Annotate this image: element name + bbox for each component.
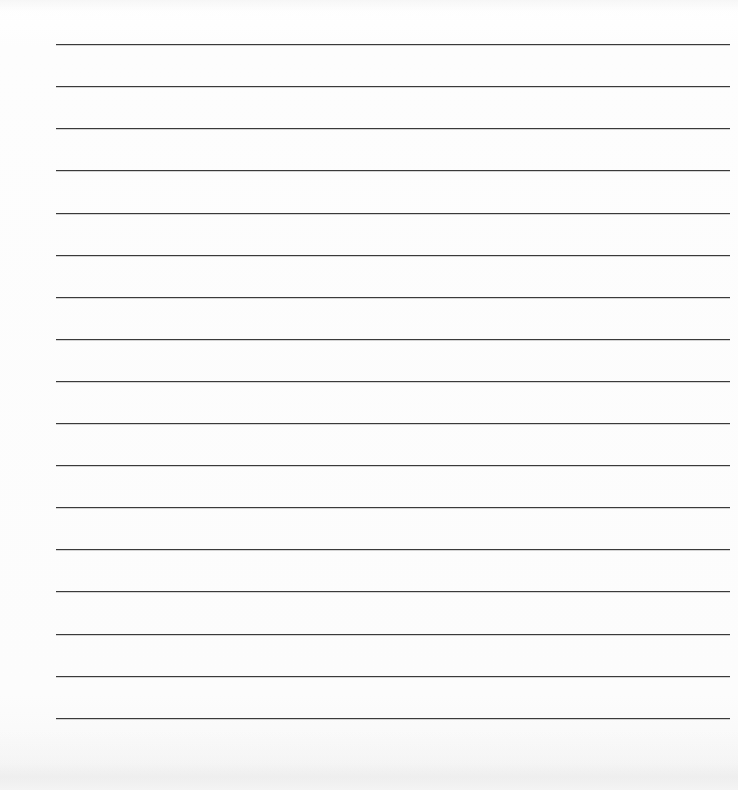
ruled-line — [56, 381, 730, 382]
ruled-line — [56, 634, 730, 635]
ruled-line — [56, 44, 730, 45]
ruled-line — [56, 591, 730, 592]
ruled-line — [56, 170, 730, 171]
ruled-line — [56, 339, 730, 340]
ruled-line — [56, 676, 730, 677]
ruled-line — [56, 718, 730, 719]
ruled-line — [56, 423, 730, 424]
ruled-line — [56, 86, 730, 87]
ruled-line — [56, 128, 730, 129]
ruled-line — [56, 549, 730, 550]
ruled-line — [56, 297, 730, 298]
ruled-paper-page — [0, 0, 738, 790]
ruled-line — [56, 465, 730, 466]
ruled-line — [56, 213, 730, 214]
ruled-line-group — [0, 0, 738, 790]
ruled-line — [56, 255, 730, 256]
ruled-line — [56, 507, 730, 508]
